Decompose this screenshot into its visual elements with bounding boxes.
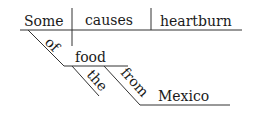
subject-word: Some bbox=[24, 13, 64, 29]
article-the-word: the bbox=[84, 66, 111, 94]
preposition-of-word: of bbox=[42, 34, 64, 56]
mexico-word: Mexico bbox=[158, 88, 209, 104]
food-word: food bbox=[75, 49, 106, 65]
object-word: heartburn bbox=[160, 13, 232, 29]
verb-word: causes bbox=[85, 12, 133, 28]
sentence-diagram: Some causes heartburn of food the from M… bbox=[0, 0, 255, 135]
preposition-from-word: from bbox=[118, 64, 152, 100]
